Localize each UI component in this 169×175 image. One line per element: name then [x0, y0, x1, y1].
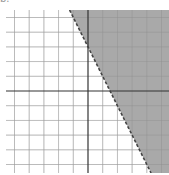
inequality-graph	[0, 0, 169, 175]
